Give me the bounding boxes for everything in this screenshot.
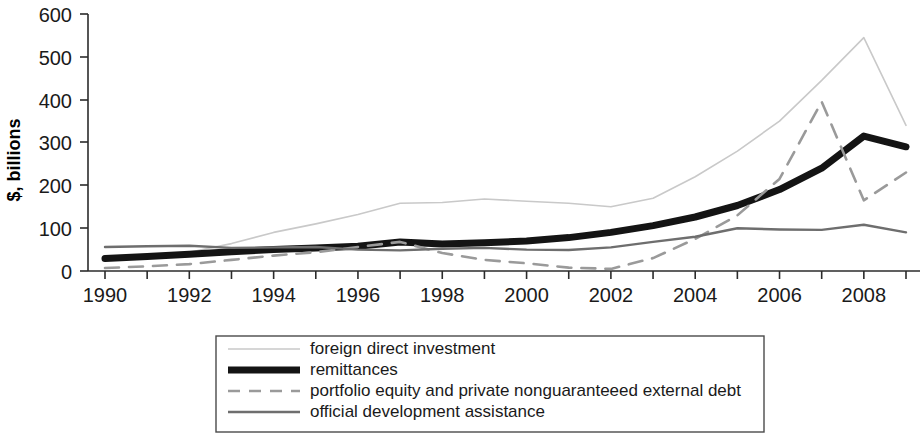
x-tick-label-2000: 2000 [504, 284, 549, 306]
y-tick-label-500: 500 [39, 47, 72, 69]
y-axis-title: $, billions [4, 118, 24, 201]
x-tick-label-2008: 2008 [842, 284, 887, 306]
series-group [105, 38, 906, 269]
y-tick-marks [80, 14, 88, 271]
line-chart: 600 500 400 300 200 100 0 $, billions 19… [0, 0, 924, 435]
x-tick-label-2002: 2002 [589, 284, 634, 306]
y-tick-label-300: 300 [39, 132, 72, 154]
x-tick-label-2006: 2006 [757, 284, 802, 306]
x-tick-label-1990: 1990 [83, 284, 128, 306]
y-axis: 600 500 400 300 200 100 0 $, billions [4, 4, 88, 283]
x-tick-label-1998: 1998 [420, 284, 465, 306]
x-tick-label-1992: 1992 [167, 284, 212, 306]
x-tick-label-group: 1990199219941996199820002002200420062008 [83, 284, 886, 306]
x-tick-label-1994: 1994 [251, 284, 296, 306]
x-tick-label-1996: 1996 [336, 284, 381, 306]
y-tick-label-0: 0 [61, 261, 72, 283]
series-line-remittances [105, 136, 906, 259]
x-axis: 1990199219941996199820002002200420062008 [83, 271, 920, 306]
legend-label-official-development-assistance: official development assistance [310, 402, 545, 421]
y-tick-label-100: 100 [39, 218, 72, 240]
series-line-foreign-direct-investment [105, 38, 906, 261]
legend-items: foreign direct investmentremittancesport… [228, 339, 741, 421]
y-tick-label-400: 400 [39, 90, 72, 112]
legend-label-remittances: remittances [310, 360, 398, 379]
x-tick-marks [105, 271, 906, 279]
legend-label-portfolio-equity-and-private-nonguarante: portfolio equity and private nonguarante… [310, 381, 741, 400]
y-tick-label-200: 200 [39, 175, 72, 197]
x-tick-label-2004: 2004 [673, 284, 718, 306]
chart-canvas: 600 500 400 300 200 100 0 $, billions 19… [0, 0, 924, 435]
series-line-official-development-assistance [105, 225, 906, 251]
legend: foreign direct investmentremittancesport… [216, 336, 764, 432]
y-tick-label-600: 600 [39, 4, 72, 26]
legend-label-foreign-direct-investment: foreign direct investment [310, 339, 495, 358]
